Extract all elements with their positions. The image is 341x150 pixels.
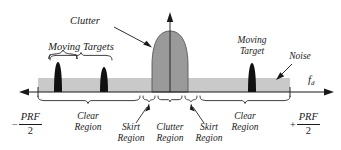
plus-prf-half-tick-label: + PRF 2 [290, 112, 320, 136]
skirt-left-leader-arrowhead [145, 104, 150, 112]
skirt-region-right-line1: Skirt [200, 123, 218, 133]
doppler-spectrum-figure: Clutter Moving Targets Moving Target Noi… [0, 0, 341, 150]
moving-target-spike-1 [54, 62, 62, 92]
axis-arrow-right [324, 89, 334, 96]
skirt-region-left-line1: Skirt [122, 123, 140, 133]
skirt-right-leader-arrowhead [190, 104, 195, 112]
clear-region-right-line1: Clear [234, 112, 256, 122]
plus-sign: + [290, 119, 296, 130]
brace-clear-region-right [200, 96, 290, 104]
brace-clutter-region [158, 96, 182, 102]
skirt-region-left-line2: Region [118, 134, 145, 144]
frequency-axis-label: fd [308, 74, 315, 87]
prf-denominator-left: 2 [19, 126, 42, 137]
axis-arrow-left [19, 89, 29, 96]
moving-target-spike-3 [248, 63, 256, 92]
prf-numerator-left: PRF [19, 112, 42, 123]
moving-target-label-line1: Moving [237, 36, 266, 46]
brace-clear-region-left [38, 96, 140, 104]
brace-moving-targets-extension [49, 54, 77, 59]
clear-region-left-line2: Region [75, 123, 102, 133]
skirt-region-right-line2: Region [196, 134, 223, 144]
frequency-axis-label-subscript: d [311, 79, 315, 87]
clutter-leader-line [114, 27, 148, 45]
moving-target-spike-2 [100, 67, 108, 92]
clutter-leader-arrowhead [143, 41, 152, 48]
moving-targets-label: Moving Targets [48, 42, 113, 53]
clutter-region-line2: Region [157, 134, 184, 144]
prf-numerator-right: PRF [297, 112, 320, 123]
clutter-region-line1: Clutter [157, 123, 184, 133]
brace-skirt-region-left [143, 96, 155, 102]
brace-skirt-region-right [185, 96, 197, 102]
noise-label: Noise [289, 52, 311, 62]
skirt-right-leader-line [193, 107, 204, 123]
skirt-left-leader-line [136, 107, 147, 123]
prf-over-two-right: PRF 2 [297, 112, 320, 136]
moving-target-label-line2: Target [240, 47, 264, 57]
clutter-label: Clutter [70, 16, 100, 27]
clear-region-right-line2: Region [232, 123, 259, 133]
zero-doppler-axis-arrow [167, 12, 173, 22]
minus-prf-half-tick-label: − PRF 2 [12, 112, 42, 136]
minus-sign: − [12, 119, 18, 130]
prf-denominator-right: 2 [297, 126, 320, 137]
prf-over-two-left: PRF 2 [19, 112, 42, 136]
clear-region-left-line1: Clear [77, 112, 99, 122]
